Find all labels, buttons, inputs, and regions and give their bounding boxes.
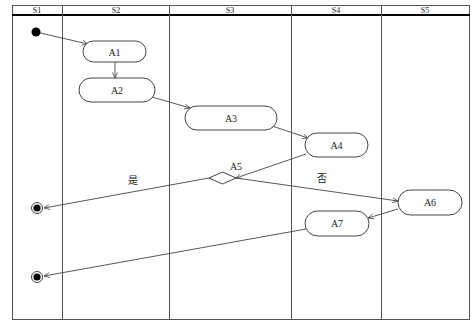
- edge-label-yes: 是: [128, 175, 138, 186]
- activity-a2-label: A2: [111, 85, 123, 96]
- lane-header-s4: S4: [332, 6, 340, 15]
- activity-a3[interactable]: A3: [185, 106, 277, 130]
- activity-a4-label: A4: [330, 140, 342, 151]
- lane-header-s3: S3: [226, 6, 234, 15]
- decision-a5-label: A5: [230, 161, 242, 172]
- activity-diagram: S1 S2 S3 S4 S5 A1 A2 A3 A4 A6 A7: [0, 0, 475, 326]
- activity-a1-label: A1: [108, 47, 120, 58]
- activity-a7-label: A7: [331, 218, 343, 229]
- lane-header-s2: S2: [112, 6, 120, 15]
- final-node-1[interactable]: [32, 203, 43, 214]
- activity-a7[interactable]: A7: [305, 211, 369, 236]
- activity-a6[interactable]: A6: [398, 190, 462, 215]
- activity-a2[interactable]: A2: [79, 78, 155, 102]
- activity-a4[interactable]: A4: [305, 133, 368, 157]
- final-node-2[interactable]: [32, 272, 43, 283]
- activity-a6-label: A6: [424, 197, 436, 208]
- initial-node[interactable]: [32, 28, 41, 37]
- activity-a3-label: A3: [225, 113, 237, 124]
- activity-a1[interactable]: A1: [83, 41, 146, 62]
- lane-header-s5: S5: [421, 6, 429, 15]
- edge-label-no: 否: [317, 173, 327, 184]
- lane-header-s1: S1: [33, 6, 41, 15]
